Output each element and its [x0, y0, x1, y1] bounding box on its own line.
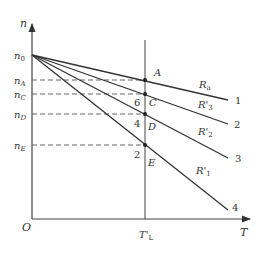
- curve-3-label: 3: [235, 153, 241, 164]
- label-nD: nD: [14, 109, 26, 122]
- segment-4: 4: [134, 118, 140, 129]
- curve-2-label: 2: [234, 119, 240, 130]
- origin-label: O: [22, 221, 31, 234]
- label-nA: nA: [14, 75, 26, 88]
- y-axis-label: n: [20, 17, 27, 30]
- resistance-Ra: Ra: [198, 79, 211, 92]
- point-C-label: C: [149, 97, 157, 108]
- resistance-R1: R'1: [195, 165, 211, 178]
- point-E-label: E: [147, 157, 156, 168]
- point-D: [143, 112, 147, 116]
- point-A-label: A: [153, 67, 161, 78]
- label-nE: nE: [14, 140, 26, 153]
- x-axis-label: T: [240, 226, 249, 239]
- segment-6: 6: [134, 97, 140, 108]
- curve-4-label: 4: [232, 202, 238, 213]
- point-C: [143, 92, 147, 96]
- curve-1-label: 1: [235, 95, 241, 106]
- label-nC: nC: [14, 89, 26, 102]
- label-n0: n0: [14, 50, 25, 63]
- segment-2: 2: [134, 149, 140, 160]
- point-A: [143, 78, 147, 82]
- resistance-R2: R'2: [197, 126, 213, 139]
- resistance-R3: R'3: [197, 99, 213, 112]
- point-E: [143, 143, 147, 147]
- speed-torque-diagram: n T O T'L n0 nA nC nD nE A C D E 6 4 2 R…: [0, 0, 265, 256]
- point-D-label: D: [147, 121, 156, 132]
- load-torque-label: T'L: [139, 229, 153, 242]
